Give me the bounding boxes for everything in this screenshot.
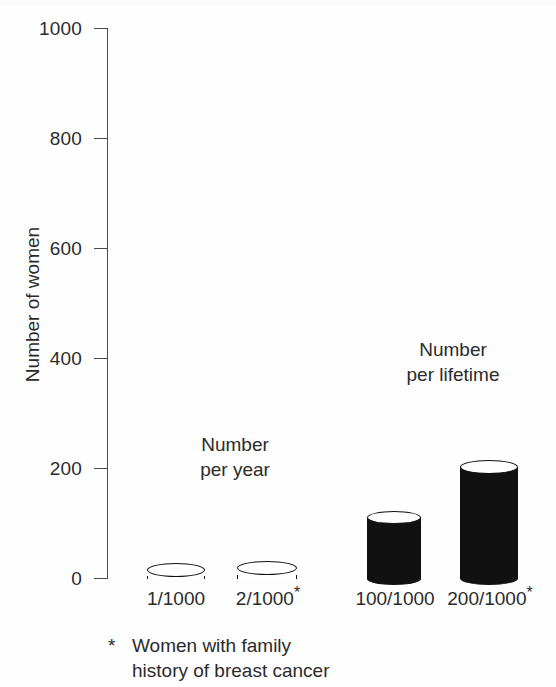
x-axis-label-200-per-1000: 200/1000* [445,588,535,609]
x-axis-label-100-per-1000: 100/1000 [352,588,438,609]
annotation-per-year-line2: per year [165,457,305,482]
annotation-number-per-year: Number per year [165,432,305,482]
bar-body-100-per-1000 [367,518,421,579]
x-axis-label-2-per-1000-star: * [294,584,300,601]
bar-top-ellipse-200-per-1000 [460,460,518,474]
y-axis-tick-0 [94,578,107,579]
footnote: * Women with family history of breast ca… [108,633,329,683]
y-axis-title: Number of women [23,210,42,400]
bar-bottom-ellipse-100-per-1000 [367,573,421,585]
y-axis-tick-400 [94,358,107,359]
footnote-line1: Women with family [108,633,329,658]
x-axis-label-1-per-1000: 1/1000 [136,588,216,609]
annotation-per-lifetime-line1: Number [378,337,528,362]
bar-2-per-1000 [237,561,297,579]
x-axis-label-2-per-1000-text: 2/1000 [236,588,294,609]
x-axis-label-1-per-1000-text: 1/1000 [147,588,205,609]
bar-top-ellipse-2-per-1000 [237,561,297,575]
bar-1-per-1000 [147,563,205,579]
y-axis-line [107,28,108,579]
y-axis-tick-label-200: 200 [20,459,82,478]
y-axis-tick-label-1000: 1000 [20,19,82,38]
x-axis-label-200-per-1000-star: * [527,584,533,601]
footnote-asterisk-icon: * [108,633,115,658]
x-axis-label-200-per-1000-text: 200/1000 [447,588,526,609]
annotation-per-lifetime-line2: per lifetime [378,362,528,387]
y-axis-tick-label-800: 800 [20,129,82,148]
y-axis-tick-1000 [94,28,107,29]
x-axis-label-100-per-1000-text: 100/1000 [355,588,434,609]
bar-body-2-per-1000 [237,575,297,579]
annotation-per-year-line1: Number [165,432,305,457]
x-axis-label-2-per-1000: 2/1000* [226,588,310,609]
scan-artifact-band [0,0,556,6]
y-axis-tick-label-0: 0 [20,569,82,588]
bar-top-ellipse-100-per-1000 [367,511,421,524]
bar-bottom-ellipse-200-per-1000 [460,572,518,585]
y-axis-tick-200 [94,468,107,469]
chart-figure: 1000 800 600 400 200 0 Number of women N… [0,0,556,687]
y-axis-tick-600 [94,248,107,249]
bar-body-200-per-1000 [460,467,518,579]
annotation-number-per-lifetime: Number per lifetime [378,337,528,387]
bar-100-per-1000 [367,511,421,579]
bar-top-ellipse-1-per-1000 [147,563,205,577]
bar-200-per-1000 [460,460,518,579]
y-axis-tick-800 [94,138,107,139]
footnote-line2: history of breast cancer [108,658,329,683]
